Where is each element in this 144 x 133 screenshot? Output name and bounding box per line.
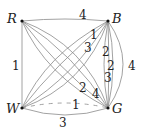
vertex-b bbox=[106, 19, 109, 22]
weight-w-b-1: 1 bbox=[90, 29, 98, 41]
vertex-r bbox=[20, 19, 23, 22]
graph-diagram: R B W G 4 1 3 1 4 2 2 3 1 3 2 4 bbox=[0, 0, 144, 133]
edge-r-b bbox=[22, 19, 108, 21]
weight-w-g: 3 bbox=[59, 117, 67, 129]
weight-r-g-2: 4 bbox=[92, 88, 100, 100]
weight-b-g-1: 2 bbox=[102, 46, 110, 58]
weight-b-g-outer: 4 bbox=[128, 60, 136, 72]
weight-b-g-3: 3 bbox=[104, 72, 112, 84]
vertex-label-w: W bbox=[6, 103, 19, 115]
weight-r-w: 1 bbox=[12, 60, 20, 72]
vertex-label-b: B bbox=[112, 13, 122, 25]
weight-r-b: 4 bbox=[79, 9, 87, 21]
edge-w-g-dashed bbox=[22, 103, 108, 108]
weight-w-g-dashed: 1 bbox=[72, 99, 80, 111]
weight-w-b-2: 3 bbox=[84, 42, 92, 54]
graph-edges bbox=[0, 0, 144, 133]
vertex-label-g: G bbox=[112, 103, 122, 115]
weight-r-g-1: 2 bbox=[79, 82, 87, 94]
vertex-label-r: R bbox=[7, 13, 17, 25]
vertex-w bbox=[20, 106, 23, 109]
vertex-g bbox=[106, 106, 109, 109]
edge-w-g bbox=[22, 108, 108, 115]
